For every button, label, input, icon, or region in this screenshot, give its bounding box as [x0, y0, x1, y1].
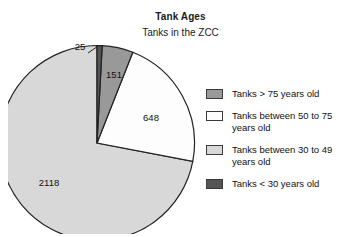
pie-value-label-648: 648 — [143, 112, 159, 123]
chart-subtitle: Tanks in the ZCC — [0, 27, 361, 38]
chart-legend: Tanks > 75 years old Tanks between 50 to… — [206, 88, 358, 190]
legend-swatch-icon — [206, 179, 223, 189]
legend-item-label: Tanks > 75 years old — [232, 88, 319, 101]
chart-title: Tank Ages — [0, 11, 361, 22]
legend-swatch-icon — [206, 111, 223, 121]
legend-item-label: Tanks < 30 years old — [232, 178, 319, 191]
legend-item-over-75-years[interactable]: Tanks > 75 years old — [206, 88, 358, 101]
pie-svg: 25 151 648 2118 — [8, 44, 198, 234]
legend-item-under-30-years[interactable]: Tanks < 30 years old — [206, 178, 358, 191]
legend-swatch-icon — [206, 89, 223, 99]
pie-plot-area: 25 151 648 2118 — [8, 44, 198, 234]
legend-item-30-to-49-years[interactable]: Tanks between 30 to 49 years old — [206, 144, 358, 169]
pie-value-label-151: 151 — [106, 69, 122, 80]
legend-swatch-icon — [206, 145, 223, 155]
legend-item-50-to-75-years[interactable]: Tanks between 50 to 75 years old — [206, 110, 358, 135]
pie-value-label-2118: 2118 — [39, 177, 59, 188]
pie-value-label-25: 25 — [75, 44, 86, 52]
pie-chart-figure: Tank Ages Tanks in the ZCC 25 151 648 21… — [0, 0, 361, 237]
legend-item-label: Tanks between 50 to 75 years old — [232, 110, 332, 135]
legend-item-label: Tanks between 30 to 49 years old — [232, 144, 332, 169]
